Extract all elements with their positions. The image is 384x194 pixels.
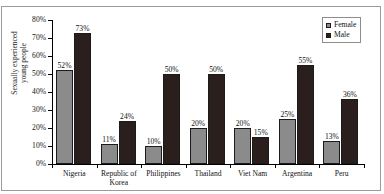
bar-group: 25%55% xyxy=(275,20,320,164)
bar-value-label: 20% xyxy=(191,120,205,128)
legend-label-female: Female xyxy=(334,20,356,30)
bar-female: 10% xyxy=(145,146,162,164)
legend-swatch-male-icon xyxy=(326,33,331,38)
bar-value-label: 11% xyxy=(102,136,116,144)
y-axis-tick-label: 70% xyxy=(32,34,46,42)
bar-value-label: 52% xyxy=(58,62,72,70)
bar-female: 20% xyxy=(190,128,207,164)
y-axis-tick-label: 30% xyxy=(32,106,46,114)
bar-value-label: 15% xyxy=(254,129,268,137)
legend-label-male: Male xyxy=(334,30,350,40)
bar-female: 52% xyxy=(56,70,73,164)
y-axis-tick-label: 40% xyxy=(32,88,46,96)
bar-value-label: 50% xyxy=(165,66,179,74)
bar-male: 50% xyxy=(208,74,225,164)
x-axis-tick-mark xyxy=(52,164,53,168)
x-axis-tick-mark xyxy=(230,164,231,168)
bar-value-label: 50% xyxy=(209,66,223,74)
x-axis-tick-mark xyxy=(186,164,187,168)
bar-value-label: 20% xyxy=(236,120,250,128)
bar-value-label: 55% xyxy=(298,57,312,65)
x-axis-tick-mark xyxy=(364,164,365,168)
chart-figure: Sexually experienced young people 0%10%2… xyxy=(0,0,384,194)
y-axis-tick-label: 20% xyxy=(32,124,46,132)
x-axis-tick-mark xyxy=(97,164,98,168)
x-axis-tick-mark xyxy=(141,164,142,168)
bar-value-label: 13% xyxy=(325,133,339,141)
category-label-line: Korea xyxy=(84,178,154,187)
bar-male: 24% xyxy=(119,121,136,164)
y-axis-title: Sexually experienced young people xyxy=(10,4,32,122)
x-axis-tick-mark xyxy=(275,164,276,168)
x-axis-category-label: Peru xyxy=(307,169,377,178)
bar-female: 13% xyxy=(323,141,340,164)
x-axis-line xyxy=(52,164,365,165)
bar-male: 73% xyxy=(74,33,91,164)
y-axis-title-line-2: young people xyxy=(19,4,28,122)
y-axis-tick-label: 60% xyxy=(32,52,46,60)
bar-female: 25% xyxy=(279,119,296,164)
category-label-line: Peru xyxy=(307,169,377,178)
y-axis-tick-label: 10% xyxy=(32,142,46,150)
plot-area: 0%10%20%30%40%50%60%70%80% 52%73%11%24%1… xyxy=(52,20,364,164)
bar-male: 36% xyxy=(341,99,358,164)
bar-value-label: 73% xyxy=(76,25,90,33)
legend-item-male: Male xyxy=(326,30,356,40)
bar-female: 11% xyxy=(101,144,118,164)
x-axis-tick-mark xyxy=(319,164,320,168)
legend-swatch-female-icon xyxy=(326,23,331,28)
y-axis-tick-label: 50% xyxy=(32,70,46,78)
chart-legend: Female Male xyxy=(322,17,361,43)
bar-value-label: 36% xyxy=(343,91,357,99)
bar-group: 52%73% xyxy=(52,20,97,164)
bar-male: 50% xyxy=(163,74,180,164)
y-axis-tick-label: 80% xyxy=(32,16,46,24)
bar-group: 20%50% xyxy=(186,20,231,164)
bar-value-label: 10% xyxy=(147,138,161,146)
bar-value-label: 24% xyxy=(120,113,134,121)
bar-group: 11%24% xyxy=(97,20,142,164)
bar-male: 15% xyxy=(252,137,269,164)
bar-male: 55% xyxy=(297,65,314,164)
y-axis-tick-label: 0% xyxy=(36,160,46,168)
y-axis-title-line-1: Sexually experienced xyxy=(10,4,19,122)
bar-group: 10%50% xyxy=(141,20,186,164)
bar-group: 20%15% xyxy=(230,20,275,164)
legend-item-female: Female xyxy=(326,20,356,30)
bar-value-label: 25% xyxy=(280,111,294,119)
bar-female: 20% xyxy=(234,128,251,164)
